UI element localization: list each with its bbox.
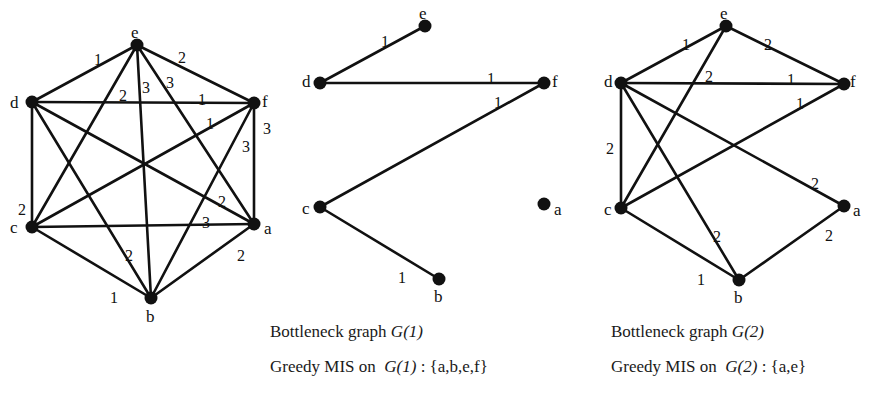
edge-weight-c-f: 1: [494, 94, 502, 111]
bottleneck-graph-g2: 1221122212edfcab: [604, 4, 861, 307]
edge-d-b: [32, 102, 151, 298]
edge-weight-d-f: 1: [487, 70, 495, 87]
node-label-c: c: [302, 199, 310, 218]
g1-mis-caption: Greedy MIS on G(1) : {a,b,e,f}: [270, 357, 488, 377]
node-label-c: c: [10, 218, 18, 237]
g2-title-caption: Bottleneck graph G(2): [611, 322, 764, 342]
edge-weight-b-f: 3: [242, 138, 250, 155]
g2-title-symbol: G(2): [732, 322, 764, 341]
edge-weight-d-b: 2: [713, 228, 721, 245]
edge-c-a: [32, 224, 254, 227]
node-label-d: d: [604, 72, 613, 91]
g1-mis-symbol: G(1): [384, 357, 416, 376]
node-c: [615, 202, 628, 215]
edge-weight-d-e: 1: [94, 51, 102, 68]
g2-title-prefix: Bottleneck graph: [611, 322, 732, 341]
edge-weight-e-f: 2: [764, 36, 772, 53]
edge-weight-d-e: 1: [682, 36, 690, 53]
edge-d-b: [621, 83, 739, 280]
edge-weight-a-e: 3: [166, 74, 174, 91]
edge-weight-c-f: 1: [206, 115, 214, 132]
node-label-d: d: [10, 93, 19, 112]
node-b: [433, 273, 446, 286]
node-c: [314, 201, 327, 214]
g1-mis-result: : {a,b,e,f}: [416, 357, 488, 376]
node-label-a: a: [264, 219, 272, 238]
node-f: [248, 97, 261, 110]
node-b: [145, 292, 158, 305]
edge-weight-d-b: 2: [125, 247, 133, 264]
g1-title-symbol: G(1): [391, 322, 423, 341]
g2-mis-result: : {a,e}: [757, 357, 806, 376]
edge-weight-a-b: 2: [825, 227, 833, 244]
node-f: [838, 78, 851, 91]
node-label-e: e: [720, 4, 728, 23]
node-label-e: e: [131, 23, 139, 42]
edge-weight-a-b: 2: [237, 247, 245, 264]
edge-c-b: [621, 208, 739, 280]
edge-weight-c-b: 1: [398, 269, 406, 286]
node-label-e: e: [419, 4, 427, 23]
g1-mis-prefix: Greedy MIS on: [270, 357, 384, 376]
edge-weight-c-b: 1: [697, 271, 705, 288]
edge-d-e: [320, 26, 425, 83]
node-label-b: b: [434, 287, 443, 306]
node-label-a: a: [853, 201, 861, 220]
g2-mis-symbol: G(2): [725, 357, 757, 376]
node-label-b: b: [146, 307, 155, 326]
node-label-b: b: [734, 288, 743, 307]
edge-weight-d-a: 2: [811, 175, 819, 192]
node-a: [838, 200, 851, 213]
g1-title-prefix: Bottleneck graph: [270, 322, 391, 341]
edge-c-f: [320, 83, 544, 207]
edge-weight-c-e: 2: [119, 87, 127, 104]
node-label-f: f: [850, 72, 856, 91]
node-a: [248, 218, 261, 231]
edge-e-f: [726, 26, 844, 84]
node-label-d: d: [302, 72, 311, 91]
edge-weight-d-e: 1: [381, 33, 389, 50]
edge-weight-c-b: 1: [110, 289, 118, 306]
edge-c-b: [32, 227, 151, 298]
node-d: [314, 77, 327, 90]
edge-d-f: [32, 102, 254, 103]
complete-weighted-graph: 123321133222312edfcab: [10, 23, 272, 326]
edge-weight-d-f: 1: [787, 71, 795, 88]
bottleneck-graph-g1: 1111edfcab: [302, 4, 562, 306]
edge-d-f: [621, 83, 844, 84]
edge-weight-d-a: 2: [218, 193, 226, 210]
node-b: [733, 274, 746, 287]
node-a: [538, 198, 551, 211]
edge-weight-e-f: 2: [178, 49, 186, 66]
node-d: [26, 96, 39, 109]
g2-mis-prefix: Greedy MIS on: [611, 357, 725, 376]
edge-weight-c-a: 3: [202, 214, 210, 231]
node-f: [538, 77, 551, 90]
edge-weight-a-f: 3: [263, 120, 271, 137]
g1-title-caption: Bottleneck graph G(1): [270, 322, 423, 342]
edge-weight-c-f: 1: [796, 95, 804, 112]
g2-mis-caption: Greedy MIS on G(2) : {a,e}: [611, 357, 806, 377]
node-label-a: a: [554, 200, 562, 219]
node-d: [615, 77, 628, 90]
edge-weight-d-c: 2: [606, 140, 614, 157]
node-label-f: f: [552, 72, 558, 91]
edge-weight-c-e: 2: [705, 68, 713, 85]
edge-weight-d-f: 1: [198, 91, 206, 108]
edge-c-b: [320, 207, 439, 279]
edge-weight-d-c: 2: [18, 201, 26, 218]
node-c: [26, 221, 39, 234]
node-label-f: f: [262, 92, 268, 111]
edge-weight-b-e: 3: [142, 79, 150, 96]
node-label-c: c: [604, 200, 612, 219]
